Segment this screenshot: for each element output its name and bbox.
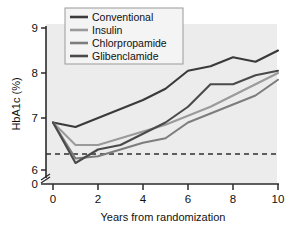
y-tick-label-0: 0: [32, 178, 38, 190]
y-tick-label-7: 7: [32, 112, 38, 124]
x-tick-label-6: 6: [185, 193, 191, 205]
y-tick-label-8: 8: [32, 67, 38, 79]
chart-figure: 9 8 7 6 0 0 2 4 6 8 10 Years from random…: [0, 0, 305, 231]
y-tick-label-9: 9: [32, 22, 38, 34]
y-axis-title: HbA1c (%): [10, 77, 22, 130]
hba1c-line-chart: 9 8 7 6 0 0 2 4 6 8 10 Years from random…: [0, 0, 305, 231]
x-tick-labels: 0 2 4 6 8 10: [50, 193, 285, 205]
x-tick-label-0: 0: [50, 193, 56, 205]
x-tick-label-2: 2: [95, 193, 101, 205]
legend-label-conventional: Conventional: [92, 11, 153, 23]
x-tick-label-4: 4: [140, 193, 147, 205]
x-axis-title: Years from randomization: [101, 211, 226, 223]
legend-label-insulin: Insulin: [92, 24, 123, 36]
legend-label-glibenclamide: Glibenclamide: [92, 50, 159, 62]
x-tick-label-8: 8: [230, 193, 236, 205]
x-tick-label-10: 10: [272, 193, 285, 205]
x-axis: [46, 184, 279, 190]
y-tick-labels: 9 8 7 6 0: [32, 22, 38, 190]
y-tick-label-6: 6: [32, 164, 38, 176]
legend: Conventional Insulin Chlorpropamide Glib…: [65, 8, 183, 64]
legend-label-chlorpropamide: Chlorpropamide: [92, 37, 167, 49]
